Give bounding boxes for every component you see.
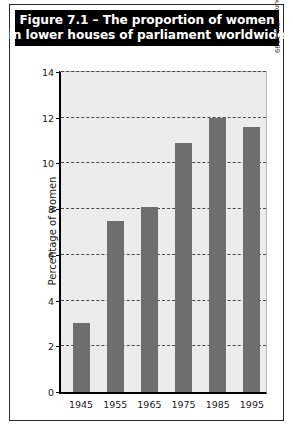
gridline [61,254,266,255]
bar [107,221,124,392]
figure-title-line-2: in lower houses of parliament worldwide [9,28,285,43]
gridline [61,71,266,72]
y-axis-tick-label: 10 [42,158,54,169]
x-axis-tick-label: 1955 [103,399,127,410]
y-axis-tick-label: 4 [48,295,54,306]
bar [243,127,260,392]
y-axis-tick-mark [56,392,60,393]
x-axis-tick-label: 1985 [206,399,230,410]
y-axis-tick-label: 12 [42,112,54,123]
gridline [61,208,266,209]
x-axis-tick-label: 1995 [240,399,264,410]
bar [73,323,90,392]
bar [141,207,158,392]
y-axis-tick-mark [56,72,60,73]
y-axis-tick-label: 6 [48,249,54,260]
y-axis-tick-label: 2 [48,341,54,352]
y-axis-tick-mark [56,346,60,347]
chart-plot-area: 02468101214 194519551965197519851995 [59,71,267,394]
gridline [61,345,266,346]
y-axis-tick-label: 0 [48,387,54,398]
gridline [61,300,266,301]
chart-plot-wrapper: Percentage of women 02468101214 19451955… [50,67,269,394]
x-axis-tick-label: 1945 [69,399,93,410]
y-axis-title: Percentage of women [47,176,58,285]
bar [175,143,192,392]
y-axis-tick-label: 8 [48,204,54,215]
y-axis-tick-label: 14 [42,67,54,78]
y-axis-tick-mark [56,301,60,302]
gridline [61,117,266,118]
x-axis-tick-label: 1965 [137,399,161,410]
source-credit: Source: IPU, 1999 [273,0,281,53]
figure-title-line-1: Figure 7.1 – The proportion of women [19,13,274,28]
y-axis-tick-mark [56,163,60,164]
figure-container: Figure 7.1 – The proportion of women in … [9,4,284,421]
y-axis-tick-mark [56,118,60,119]
x-axis-tick-label: 1975 [171,399,195,410]
y-axis-tick-mark [56,209,60,210]
y-axis-tick-mark [56,255,60,256]
figure-title-banner: Figure 7.1 – The proportion of women in … [15,10,279,46]
bar [209,118,226,392]
gridline [61,162,266,163]
